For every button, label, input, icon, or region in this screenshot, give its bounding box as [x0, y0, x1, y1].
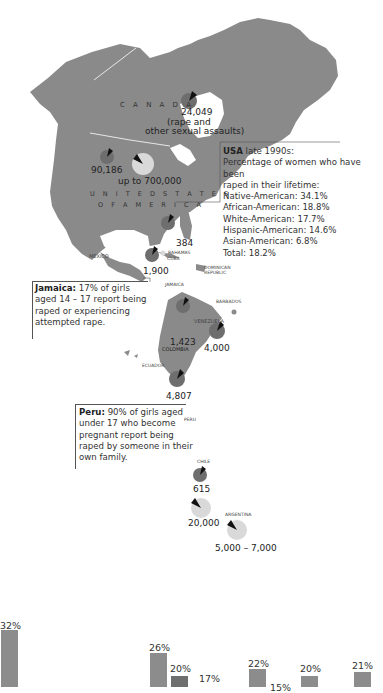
bar-4 — [249, 669, 266, 687]
bar-label-3: 17% — [199, 673, 220, 684]
label-argentina: ARGENTINA — [225, 512, 251, 517]
label-venezuela: VENEZUELA — [194, 318, 224, 324]
jamaica-line-4: attempted rape. — [35, 317, 165, 328]
usa-line-0: Percentage of women who have been — [223, 157, 383, 180]
jamaica-callout-title: Jamaica: — [35, 283, 76, 293]
usa-callout-title: USA — [223, 146, 243, 156]
bahamas-marker — [161, 251, 166, 256]
figure-canada-note-2: other sexual assaults) — [145, 126, 244, 136]
label-jamaica: JAMAICA — [165, 282, 184, 287]
figure-usa-a: 90,186 — [91, 165, 123, 175]
bar-chart: 32% 26% 20% 17% 22% 15% 20% 21% — [0, 600, 383, 687]
barbados-island — [232, 310, 237, 315]
bar-6 — [301, 676, 318, 687]
pie-chile — [193, 466, 207, 482]
figure-chile-b: 20,000 — [188, 518, 220, 528]
usa-line-2: Native-American: 34.1% — [223, 191, 383, 202]
usa-line-7: Total: 18.2% — [223, 248, 383, 259]
figure-chile: 615 — [193, 484, 210, 494]
jamaica-line-3: raped or experiencing — [35, 306, 165, 317]
figure-ecuador: 4,807 — [166, 391, 192, 401]
bar-label-6: 20% — [300, 663, 321, 674]
peru-line-5: own family. — [79, 452, 209, 463]
figure-colombia: 1,423 — [170, 337, 196, 347]
figure-canada: 24,049 — [181, 107, 213, 117]
florida — [180, 210, 192, 240]
bar-label-5: 15% — [270, 682, 291, 693]
figure-argentina: 5,000 – 7,000 — [215, 543, 277, 553]
peru-line-4: raped by someone in their — [79, 441, 209, 452]
usa-line-4: White-American: 17.7% — [223, 214, 383, 225]
bar-label-2: 20% — [170, 663, 191, 674]
figure-cuba: 1,900 — [143, 266, 169, 276]
jamaica-callout: Jamaica: 17% of girls aged 14 – 17 repor… — [35, 283, 165, 328]
peru-line-3: pregnant report being — [79, 430, 209, 441]
figure-bahamas: 384 — [176, 238, 193, 248]
peru-line-2: under 17 who become — [79, 418, 209, 429]
usa-line-1: raped in their lifetime: — [223, 180, 383, 191]
bar-label-0: 32% — [0, 620, 21, 631]
bar-7 — [354, 672, 371, 687]
figure-usa-b: up to 700,000 — [118, 176, 181, 186]
pie-chile-b — [191, 498, 211, 518]
bar-label-1: 26% — [149, 642, 170, 653]
bar-2 — [171, 676, 188, 687]
label-mexico: MEXICO — [89, 253, 109, 259]
pie-usa-b — [132, 153, 154, 175]
label-dominican-republic: DOMINICAN REPUBLIC — [204, 265, 234, 275]
galapagos — [124, 350, 138, 358]
bar-0 — [1, 630, 18, 687]
bar-label-4: 22% — [248, 658, 269, 669]
pie-argentina — [227, 520, 247, 540]
usa-line-5: Hispanic-American: 14.6% — [223, 225, 383, 236]
usa-callout: USA late 1990s: Percentage of women who … — [223, 146, 383, 259]
peru-callout: Peru: 90% of girls aged under 17 who bec… — [79, 407, 209, 463]
label-ecuador: ECUADOR — [142, 363, 165, 368]
label-usa: U N I T E D S T A T E S — [90, 190, 231, 198]
jamaica-line-1: 17% of girls — [79, 283, 130, 293]
label-barbados: BARBADOS — [216, 299, 241, 304]
label-bahamas: BAHAMAS — [168, 250, 190, 255]
usa-line-6: Asian-American: 6.8% — [223, 236, 383, 247]
map-panel: C A N A D A U N I T E D S T A T E S O F … — [0, 0, 383, 600]
jamaica-line-2: aged 14 – 17 report being — [35, 294, 165, 305]
peru-callout-title: Peru: — [79, 407, 105, 417]
usa-callout-period: late 1990s: — [246, 146, 294, 156]
usa-line-3: African-American: 18.8% — [223, 202, 383, 213]
figure-venezuela: 4,000 — [204, 343, 230, 353]
bar-label-7: 21% — [352, 660, 373, 671]
bar-1 — [150, 653, 167, 687]
label-cuba: CUBA — [167, 256, 180, 261]
label-usa-2: O F A M E R I C A — [98, 201, 204, 209]
peru-line-1: 90% of girls aged — [108, 407, 183, 417]
